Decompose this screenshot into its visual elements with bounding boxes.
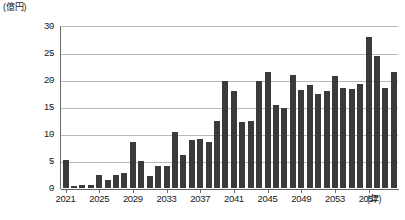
bar-2031 [147,176,153,188]
y-tick-label-30: 30 [4,21,54,31]
bar-series [60,26,397,188]
bar-2037 [197,139,203,188]
x-tick-label-2045: 2045 [258,194,278,204]
bar-2051 [315,94,321,188]
bar-2055 [349,89,355,188]
bar-2052 [324,91,330,188]
bar-2022 [71,186,77,188]
x-tick-label-2033: 2033 [157,194,177,204]
bar-2060 [391,72,397,188]
x-tick-label-2037: 2037 [190,194,210,204]
y-tick-mark-25 [51,53,54,54]
bar-2024 [88,185,94,188]
y-tick-mark-20 [51,80,54,81]
x-tick-label-2021: 2021 [56,194,76,204]
y-tick-label-25: 25 [4,48,54,58]
bar-2054 [340,88,346,188]
bar-2035 [180,155,186,188]
bar-2027 [113,175,119,188]
x-tick-label-2053: 2053 [325,194,345,204]
bar-2050 [307,85,313,188]
x-tick-label-2049: 2049 [291,194,311,204]
bar-2021 [63,160,69,188]
x-tick-label-2025: 2025 [89,194,109,204]
y-axis-tick-labels: 051015202530 [0,26,54,188]
bar-2049 [298,90,304,188]
bar-2034 [172,132,178,188]
bar-2032 [155,166,161,188]
bar-2042 [239,122,245,188]
bar-2030 [138,161,144,188]
bar-2023 [79,185,85,188]
bar-2043 [248,121,254,188]
bar-2029 [130,142,136,188]
bar-2057 [366,37,372,188]
bar-2039 [214,121,220,189]
y-tick-label-10: 10 [4,129,54,139]
bar-2038 [206,142,212,188]
y-axis-unit-label: (億円) [3,2,26,13]
y-tick-mark-30 [51,26,54,27]
bar-2041 [231,91,237,188]
x-tick-label-2029: 2029 [123,194,143,204]
bar-2044 [256,81,262,188]
y-tick-label-15: 15 [4,102,54,112]
bar-2053 [332,76,338,188]
bar-2036 [189,140,195,188]
y-tick-mark-15 [51,107,54,108]
y-tick-label-5: 5 [4,156,54,166]
bar-2058 [374,56,380,188]
y-tick-mark-0 [51,188,54,189]
bar-2059 [382,88,388,188]
bar-2040 [222,81,228,188]
bar-2025 [96,175,102,189]
bar-2048 [290,75,296,188]
bar-chart: (億円) 051015202530 2021202520292033203720… [0,0,405,220]
bar-2056 [357,84,363,188]
x-axis-unit-label: (年) [367,194,381,204]
bar-2026 [105,180,111,188]
y-tick-label-20: 20 [4,75,54,85]
bar-2047 [281,108,287,188]
x-axis-tick-labels: 2021202520292033203720412045204920532057… [0,190,405,212]
bar-2046 [273,105,279,188]
x-tick-label-2041: 2041 [224,194,244,204]
bar-2045 [265,72,271,188]
bar-2033 [164,166,170,188]
bar-2028 [121,173,127,188]
y-tick-mark-5 [51,161,54,162]
y-tick-mark-10 [51,134,54,135]
